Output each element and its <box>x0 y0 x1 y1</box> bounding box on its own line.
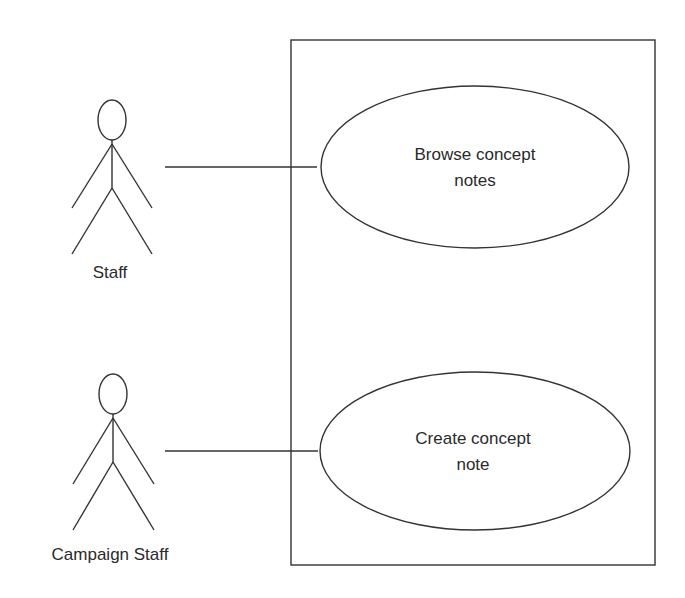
actor-label: Staff <box>93 263 128 282</box>
use-case-diagram: Staff Campaign Staff Browse concept note… <box>0 0 685 598</box>
use-case-label-line2: notes <box>454 171 496 190</box>
stick-figure-icon <box>72 100 152 254</box>
actor-label: Campaign Staff <box>52 545 169 564</box>
stick-figure-icon <box>73 374 154 530</box>
use-case-label-line1: Create concept <box>415 429 531 448</box>
actor-campaign-staff: Campaign Staff <box>52 374 169 564</box>
system-boundary <box>291 40 655 565</box>
use-case-label-line1: Browse concept <box>415 145 536 164</box>
use-case-label-line2: note <box>456 455 489 474</box>
use-case-create-concept-note: Create concept note <box>320 372 630 530</box>
actor-staff: Staff <box>72 100 152 282</box>
use-case-browse-concept-notes: Browse concept notes <box>321 86 629 248</box>
